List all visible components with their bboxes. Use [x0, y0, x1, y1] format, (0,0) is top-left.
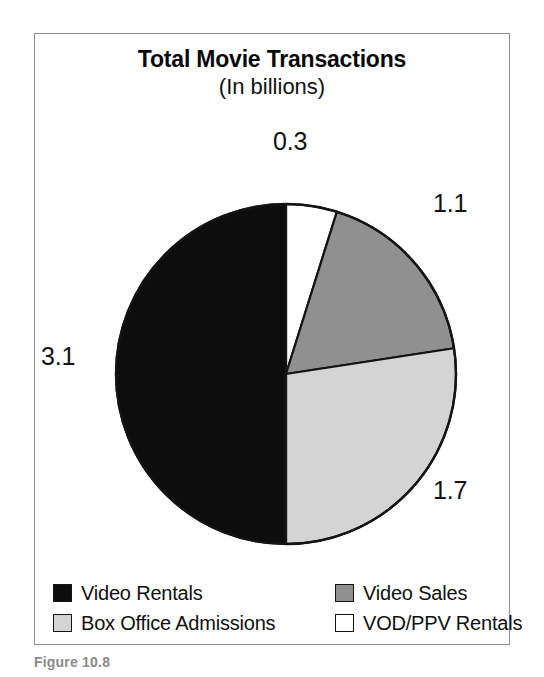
legend-swatch-vod-ppv-rentals — [335, 614, 354, 632]
pie-chart: 0.3 1.1 1.7 3.1 — [35, 34, 511, 646]
legend-item-box-office-admissions: Box Office Admissions — [53, 612, 335, 635]
chart-legend: Video Rentals Video Sales Box Office Adm… — [53, 578, 493, 638]
figure-frame: Total Movie Transactions (In billions) 0… — [34, 33, 510, 645]
legend-label-box-office-admissions: Box Office Admissions — [81, 612, 275, 635]
pie-slice-box-office-admissions — [286, 348, 456, 544]
legend-item-vod-ppv-rentals: VOD/PPV Rentals — [335, 612, 522, 635]
legend-swatch-video-sales — [335, 584, 354, 602]
legend-swatch-box-office-admissions — [53, 614, 72, 632]
legend-swatch-video-rentals — [53, 584, 72, 602]
legend-item-video-sales: Video Sales — [335, 582, 522, 605]
slice-value-video-rentals: 3.1 — [41, 342, 75, 371]
pie-slice-video-rentals — [116, 204, 286, 544]
pie-slice-group — [116, 204, 456, 544]
legend-label-vod-ppv-rentals: VOD/PPV Rentals — [363, 612, 522, 635]
slice-value-box-office-admissions: 1.7 — [433, 476, 467, 505]
pie-svg — [35, 34, 511, 646]
slice-value-video-sales: 1.1 — [433, 189, 467, 218]
slice-value-vod-ppv-rentals: 0.3 — [273, 127, 307, 156]
figure-caption: Figure 10.8 — [34, 654, 110, 670]
legend-label-video-sales: Video Sales — [363, 582, 467, 605]
legend-item-video-rentals: Video Rentals — [53, 582, 335, 605]
legend-label-video-rentals: Video Rentals — [81, 582, 203, 605]
